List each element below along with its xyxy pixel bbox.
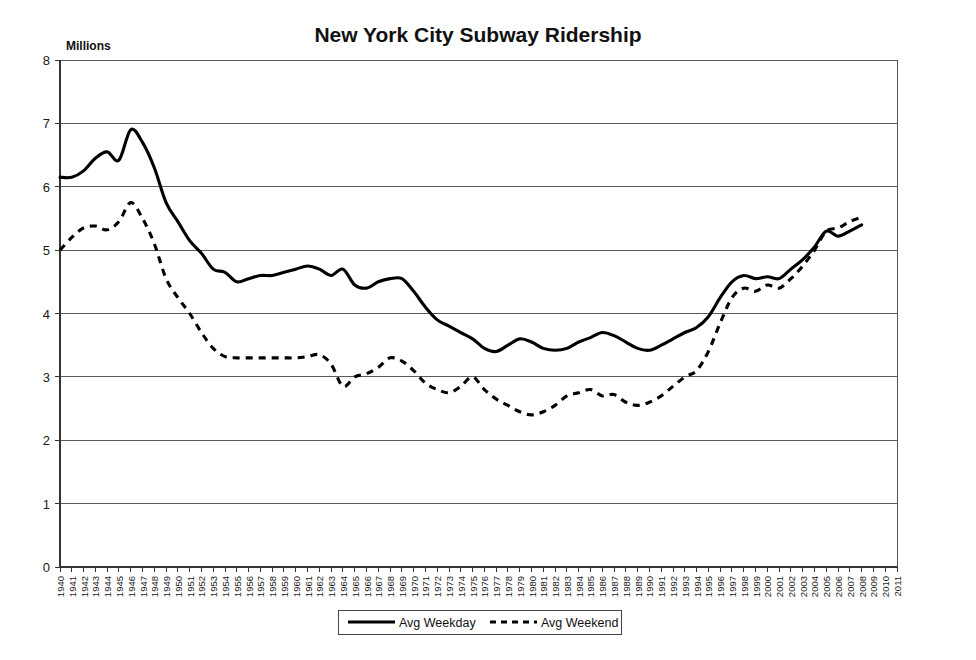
x-tick-label-1946: 1946 (126, 576, 137, 597)
y-tick-label-5: 5 (43, 243, 50, 258)
x-tick-label-1980: 1980 (527, 576, 538, 597)
y-tick-label-1: 1 (43, 497, 50, 512)
x-tick-label-1948: 1948 (149, 576, 160, 597)
y-tick-label-2: 2 (43, 433, 50, 448)
x-tick-label-1983: 1983 (562, 576, 573, 597)
x-tick-label-1944: 1944 (102, 576, 113, 597)
x-tick-label-1987: 1987 (609, 576, 620, 597)
gridlines (60, 60, 897, 504)
x-tick-label-1979: 1979 (515, 576, 526, 597)
x-tick-label-2011: 2011 (892, 576, 903, 596)
x-tick-label-1998: 1998 (739, 576, 750, 597)
x-tick-label-1962: 1962 (314, 576, 325, 597)
y-axis-ticks: 012345678 (43, 53, 60, 575)
y-tick-label-7: 7 (43, 116, 50, 131)
x-tick-label-1988: 1988 (621, 576, 632, 597)
y-tick-label-3: 3 (43, 370, 50, 385)
x-tick-label-1968: 1968 (385, 576, 396, 597)
x-tick-label-1972: 1972 (432, 576, 443, 597)
x-axis-ticks: 1940194119421943194419451946194719481949… (55, 567, 903, 597)
x-tick-label-1993: 1993 (680, 576, 691, 597)
x-tick-label-1967: 1967 (373, 576, 384, 597)
x-tick-label-2000: 2000 (762, 576, 773, 597)
x-tick-label-1989: 1989 (633, 576, 644, 597)
x-tick-label-2002: 2002 (786, 576, 797, 597)
x-tick-label-1960: 1960 (291, 576, 302, 597)
x-tick-label-2005: 2005 (821, 576, 832, 597)
ridership-line-chart: New York City Subway Ridership Millions … (0, 0, 976, 660)
x-tick-label-1973: 1973 (444, 576, 455, 597)
x-tick-label-2010: 2010 (880, 576, 891, 597)
x-tick-label-1963: 1963 (326, 576, 337, 597)
x-tick-label-1981: 1981 (538, 576, 549, 597)
y-tick-label-0: 0 (43, 560, 50, 575)
x-tick-label-1994: 1994 (692, 576, 703, 597)
x-tick-label-1964: 1964 (338, 576, 349, 597)
x-tick-label-1945: 1945 (114, 576, 125, 597)
x-tick-label-2009: 2009 (868, 576, 879, 597)
x-tick-label-1943: 1943 (90, 576, 101, 597)
x-tick-label-2006: 2006 (833, 576, 844, 597)
x-tick-label-1997: 1997 (727, 576, 738, 597)
x-tick-label-1959: 1959 (279, 576, 290, 597)
x-tick-label-1970: 1970 (409, 576, 420, 597)
x-tick-label-1992: 1992 (668, 576, 679, 597)
chart-legend: Avg Weekday Avg Weekend (338, 610, 621, 634)
x-tick-label-1999: 1999 (751, 576, 762, 597)
x-tick-label-1951: 1951 (185, 576, 196, 597)
x-tick-label-1941: 1941 (67, 576, 78, 597)
legend-label-avg-weekday: Avg Weekday (399, 616, 476, 630)
x-tick-label-1991: 1991 (656, 576, 667, 597)
x-tick-label-1976: 1976 (479, 576, 490, 597)
x-tick-label-1969: 1969 (397, 576, 408, 597)
x-tick-label-2003: 2003 (798, 576, 809, 597)
x-tick-label-1977: 1977 (491, 576, 502, 597)
x-tick-label-1942: 1942 (79, 576, 90, 597)
x-tick-label-1956: 1956 (244, 576, 255, 597)
x-tick-label-1965: 1965 (350, 576, 361, 597)
x-tick-label-1995: 1995 (703, 576, 714, 597)
x-tick-label-1957: 1957 (255, 576, 266, 597)
x-tick-label-1985: 1985 (585, 576, 596, 597)
x-tick-label-1952: 1952 (196, 576, 207, 597)
y-tick-label-8: 8 (43, 53, 50, 68)
x-tick-label-1974: 1974 (456, 576, 467, 597)
x-tick-label-1975: 1975 (468, 576, 479, 597)
x-tick-label-1990: 1990 (644, 576, 655, 597)
x-tick-label-1996: 1996 (715, 576, 726, 597)
y-tick-label-4: 4 (43, 307, 50, 322)
x-tick-label-1940: 1940 (55, 576, 66, 597)
x-tick-label-2001: 2001 (774, 576, 785, 597)
y-tick-label-6: 6 (43, 180, 50, 195)
x-tick-label-1966: 1966 (362, 576, 373, 597)
x-tick-label-1958: 1958 (267, 576, 278, 597)
x-tick-label-1950: 1950 (173, 576, 184, 597)
x-tick-label-1961: 1961 (303, 576, 314, 597)
x-tick-label-2004: 2004 (809, 576, 820, 597)
chart-title: New York City Subway Ridership (314, 23, 641, 46)
series-line-avg-weekday (60, 129, 862, 351)
chart-container: New York City Subway Ridership Millions … (0, 0, 976, 660)
y-axis-unit-label: Millions (66, 39, 111, 53)
x-tick-label-2007: 2007 (845, 576, 856, 597)
x-tick-label-1953: 1953 (208, 576, 219, 597)
legend-label-avg-weekend: Avg Weekend (541, 616, 618, 630)
x-tick-label-1984: 1984 (574, 576, 585, 597)
x-tick-label-1949: 1949 (161, 576, 172, 597)
x-tick-label-1947: 1947 (138, 576, 149, 597)
x-tick-label-1978: 1978 (503, 576, 514, 597)
x-tick-label-1954: 1954 (220, 576, 231, 597)
x-tick-label-1971: 1971 (420, 576, 431, 597)
x-tick-label-1955: 1955 (232, 576, 243, 597)
x-tick-label-2008: 2008 (857, 576, 868, 597)
series-line-avg-weekend (60, 203, 862, 415)
x-tick-label-1986: 1986 (597, 576, 608, 597)
x-tick-label-1982: 1982 (550, 576, 561, 597)
